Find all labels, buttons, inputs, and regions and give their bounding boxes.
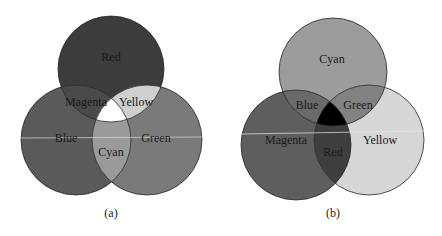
label-a-top: Red [101,50,120,64]
label-a-bottom: Cyan [98,145,123,159]
label-b-right: Yellow [363,133,397,147]
label-b-top-left: Blue [296,98,319,112]
label-a-left: Blue [55,131,78,145]
label-b-left: Magenta [265,133,308,147]
panel-a-additive: Red Magenta Yellow Blue Green Cyan (a) [21,16,202,220]
caption-a: (a) [104,206,117,220]
label-a-right: Green [141,131,170,145]
label-b-top: Cyan [319,52,344,66]
label-a-top-left: Magenta [65,95,108,109]
label-a-top-right: Yellow [119,95,153,109]
caption-b: (b) [326,206,340,220]
label-b-bottom: Red [323,145,342,159]
color-venn-figure: Red Magenta Yellow Blue Green Cyan (a) C… [0,0,442,236]
panel-b-subtractive: Cyan Blue Green Magenta Yellow Red (b) [241,18,424,220]
label-b-top-right: Green [343,98,372,112]
